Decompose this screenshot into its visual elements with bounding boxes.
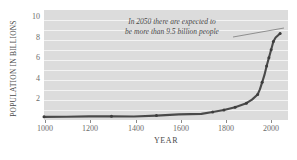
data-point-marker <box>265 65 268 68</box>
data-point-marker <box>110 115 113 118</box>
population-line <box>44 33 280 116</box>
data-point-marker <box>234 106 237 109</box>
chart-vector-layer <box>0 0 297 160</box>
data-point-marker <box>261 81 264 84</box>
data-point-marker <box>155 114 158 117</box>
data-point-marker <box>245 102 248 105</box>
data-point-marker <box>279 32 282 35</box>
data-point-marker <box>272 40 275 43</box>
data-point-marker <box>43 115 46 118</box>
data-point-marker <box>270 48 273 51</box>
data-point-marker <box>256 93 259 96</box>
data-point-marker <box>267 56 270 59</box>
data-point-markers <box>43 32 282 118</box>
population-growth-chart: 10 8 6 4 2 1000 1200 1400 1600 1800 2000… <box>0 0 297 160</box>
data-point-marker <box>222 109 225 112</box>
data-point-marker <box>211 110 214 113</box>
